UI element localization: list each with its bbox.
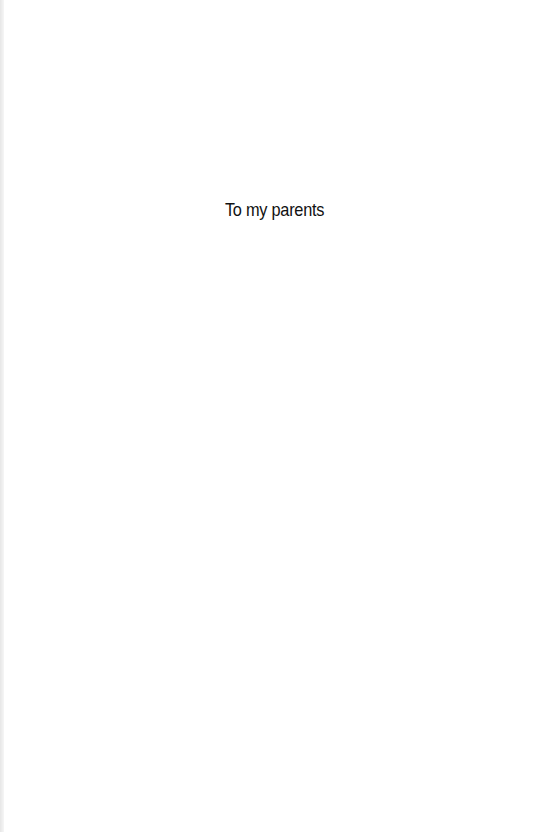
book-page: To my parents [0,0,548,832]
page-edge-shadow [0,0,4,832]
dedication-text: To my parents [39,199,510,221]
